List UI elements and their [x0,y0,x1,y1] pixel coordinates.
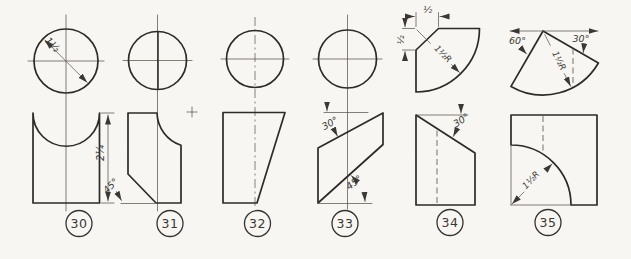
left-angle-leader-arrow [521,48,527,55]
technical-drawing-canvas: 1½ 2¼ 30 45° 31 32 30° [0,0,631,259]
figure-34: ½ ½ 1½R 30° 34 [395,4,480,236]
radius-arrow-front [547,164,553,170]
radius-arrow [452,65,460,73]
top-offset-label: ½ [423,4,433,15]
slope-angle-leader-arrow [453,128,457,137]
figure-number: 35 [540,215,557,230]
figure-number: 31 [162,216,179,231]
radius-top-label: 1½R [550,49,568,72]
figure-31: 45° 31 [101,15,197,237]
top-offset-extension-lines [416,13,439,27]
front-view-outline [128,113,181,203]
front-view-outline [511,115,597,205]
height-label: 2¼ [95,145,106,161]
top-angle-leader-arrow [335,131,338,137]
figure-30: 1½ 2¼ 30 [28,15,114,237]
angle-leader-arrow [117,192,122,201]
bottom-angle-label: 45° [344,173,364,192]
radius-dimension-line-tail [512,192,524,204]
figure-32: 32 [221,17,289,237]
side-offset-label: ½ [395,35,406,45]
slope-angle-label: 30° [451,111,471,129]
left-angle-label: 60° [509,35,526,46]
figure-number: 32 [249,216,266,231]
radius-dimension-line [545,35,550,46]
radius-arrow [564,74,570,87]
diameter-label: 1½ [43,35,62,54]
front-view-outline [223,113,285,204]
figure-number: 34 [442,215,459,230]
arc-center-mark [187,107,197,117]
radius-front-label: 1½R [520,169,541,191]
radius-label: 1½R [432,43,453,64]
drawing-sheet: 1½ 2¼ 30 45° 31 32 30° [0,0,631,259]
figure-number: 33 [337,216,354,231]
top-angle-label: 30° [320,114,340,132]
figure-35: 60° 30° 1½R 1½R 35 [509,31,598,236]
front-view-outline [416,115,475,205]
bottom-angle-tick-arrow [365,194,366,202]
right-angle-label: 30° [573,33,590,44]
right-angle-leader-arrow [583,46,584,53]
figure-33: 30° 45° 33 [313,15,383,237]
figure-number: 30 [71,216,88,231]
